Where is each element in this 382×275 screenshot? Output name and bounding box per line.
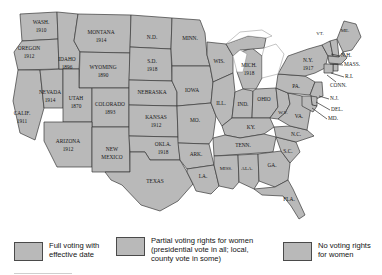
legend-swatch-partial <box>116 237 145 256</box>
leader-line-nj <box>319 96 329 99</box>
state-date-kans: 1912 <box>151 122 162 128</box>
state-label-nebr: NEBRASKA <box>137 89 166 95</box>
state-date-nev: 1914 <box>45 97 56 103</box>
state-label-fla: FLA. <box>283 196 295 202</box>
state-label-minn: MINN. <box>182 35 198 41</box>
state-label-oreg: OREGON <box>18 45 41 51</box>
state-shape-calif <box>13 70 44 140</box>
state-shape-mo <box>177 103 216 144</box>
state-date-sd: 1918 <box>147 66 158 72</box>
state-label-mont: MONTANA <box>87 29 114 35</box>
legend-item-partial: Partial voting rights for women (preside… <box>116 236 253 264</box>
state-label-idaho: IDAHO <box>58 56 75 62</box>
legend-label-full: Full voting with effective date <box>49 241 99 259</box>
state-date-idaho: 1896 <box>62 64 73 70</box>
callout-label-conn: CONN. <box>330 82 347 88</box>
state-label-okla: OKLA. <box>155 141 171 147</box>
callout-label-md: MD. <box>328 115 338 121</box>
callout-label-mass: MASS. <box>344 61 360 67</box>
state-date-wash: 1910 <box>36 27 47 33</box>
state-label-colo: COLORADO <box>95 101 125 107</box>
state-label-nd: N.D. <box>147 34 157 40</box>
state-label-wis: WIS. <box>213 58 224 64</box>
state-label-mich: MICH. <box>241 62 256 68</box>
state-date-utah: 1870 <box>71 103 82 109</box>
footer-divider <box>14 273 72 274</box>
state-shape-minn <box>171 18 210 66</box>
state-label-kans: KANSAS <box>145 114 167 120</box>
state-label-sc: S.C. <box>283 148 292 154</box>
leader-line-md <box>312 108 327 119</box>
state-label-ohio: OHIO <box>257 96 271 102</box>
state-label-miss: MISS. <box>220 166 233 171</box>
state-label-ky: KY. <box>247 124 255 130</box>
state-label-ny: N.Y. <box>303 57 313 63</box>
state-label-ill: ILL. <box>216 100 226 106</box>
state-label-va: VA. <box>295 113 303 119</box>
callout-label-ri: R.I. <box>345 73 353 79</box>
legend-swatch-full <box>14 242 43 261</box>
state-label-calif: CALIF. <box>14 110 31 116</box>
state-label-nev: NEVADA <box>39 89 61 95</box>
state-label-la: LA. <box>199 173 208 179</box>
state-label-pa: PA. <box>292 83 300 89</box>
legend-item-full: Full voting with effective date <box>14 241 99 261</box>
state-date-calif: 1911 <box>17 118 28 124</box>
state-label-tenn: TENN. <box>235 142 251 148</box>
state-shape-ala <box>238 154 259 189</box>
leader-line-conn <box>327 75 336 82</box>
state-label-nmex: NEW <box>106 146 119 152</box>
state-shape-me <box>337 21 361 52</box>
state-label-wyo: WYOMING <box>89 64 116 70</box>
state-shape-conn <box>324 64 333 73</box>
state-label-ga: GA. <box>267 162 276 168</box>
state-shape-ariz <box>44 122 92 167</box>
state-label-nmex-2: MEXICO <box>101 154 122 160</box>
state-label-wv: W.V. <box>278 110 288 115</box>
state-date-wyo: 1890 <box>98 72 109 78</box>
leader-line-del <box>316 102 330 110</box>
state-label-iowa: IOWA <box>185 87 199 93</box>
state-label-vt: VT. <box>316 31 323 36</box>
state-shapes <box>13 12 361 219</box>
state-shape-nd <box>130 15 172 49</box>
state-label-texas: TEXAS <box>146 178 163 184</box>
state-label-ariz: ARIZONA <box>56 138 80 144</box>
legend-swatch-none <box>283 242 312 261</box>
state-label-ala: ALA. <box>241 166 252 171</box>
us-map-container: WASH. 1910 OREGON 1912 CALIF. 1911 NEVAD… <box>0 0 382 228</box>
state-date-ariz: 1912 <box>63 146 74 152</box>
state-label-wash: WASH. <box>33 19 50 25</box>
state-label-utah: UTAH <box>69 95 84 101</box>
state-shape-iowa <box>172 66 213 106</box>
state-date-colo: 1893 <box>105 109 116 115</box>
state-shape-ri <box>333 64 338 71</box>
state-date-oreg: 1912 <box>24 53 35 59</box>
us-states-map: WASH. 1910 OREGON 1912 CALIF. 1911 NEVAD… <box>0 0 382 228</box>
state-date-okla: 1918 <box>158 149 169 155</box>
state-shape-kans <box>129 105 178 137</box>
callout-label-del: DEL. <box>331 106 343 112</box>
callout-label-nj: N.J. <box>330 95 339 101</box>
state-shape-fla <box>254 180 305 219</box>
legend-label-partial: Partial voting rights for women (preside… <box>151 236 253 264</box>
state-label-ark: ARK. <box>190 151 203 157</box>
state-label-mo: MO. <box>190 117 200 123</box>
state-label-sd: S.D. <box>147 58 157 64</box>
state-label-nc: N.C. <box>291 131 301 137</box>
callout-label-nh: N.H. <box>341 52 351 58</box>
state-date-mont: 1914 <box>96 37 107 43</box>
state-label-me: ME. <box>341 28 350 33</box>
state-shape-oreg <box>14 39 59 70</box>
state-label-ind: IND. <box>238 101 249 107</box>
state-shape-la <box>187 165 219 194</box>
leader-line-ri <box>331 73 344 77</box>
map-legend: Full voting with effective date Partial … <box>0 228 382 275</box>
state-date-ny: 1917 <box>303 65 314 71</box>
state-date-mich: 1918 <box>244 70 255 76</box>
state-shape-colo <box>92 88 129 127</box>
legend-item-none: No voting rights for women <box>283 241 371 261</box>
legend-label-none: No voting rights for women <box>318 241 371 259</box>
